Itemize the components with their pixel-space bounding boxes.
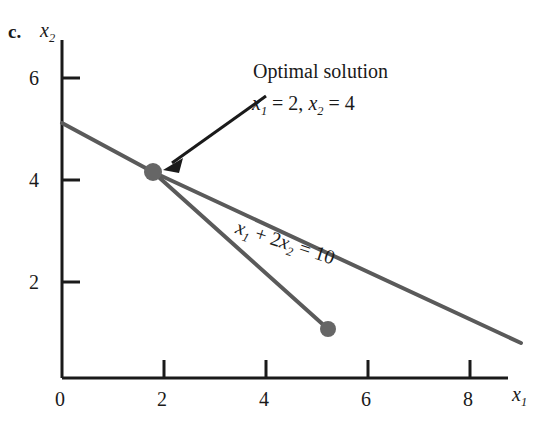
optimal-solution-values: x1 = 2, x2 = 4 bbox=[252, 93, 355, 117]
y-tick-label-2: 2 bbox=[29, 272, 39, 292]
figure-panel-c: c. x2 x1 6 4 2 0 2 4 6 8 Optimal solutio… bbox=[0, 0, 545, 428]
x-tick-label-4: 4 bbox=[259, 389, 269, 409]
endpoint-point bbox=[320, 321, 336, 337]
y-tick-label-6: 6 bbox=[29, 68, 39, 88]
panel-label: c. bbox=[8, 22, 21, 41]
y-axis-label-sub: 2 bbox=[49, 31, 55, 45]
x-axis-label-sub: 1 bbox=[521, 395, 527, 409]
x-axis-label: x1 bbox=[512, 384, 527, 408]
y-axis-label-var: x bbox=[40, 19, 49, 41]
y-axis-label: x2 bbox=[40, 20, 55, 44]
optimal-x2-var: x bbox=[308, 92, 317, 114]
x-axis-label-var: x bbox=[512, 383, 521, 405]
annotation-arrow-head bbox=[163, 158, 183, 173]
x-tick-label-6: 6 bbox=[361, 389, 371, 409]
y-tick-label-4: 4 bbox=[29, 170, 39, 190]
x-tick-label-0: 0 bbox=[55, 389, 65, 409]
optimal-x1-eq: = 2, bbox=[267, 92, 308, 114]
optimal-x1-var: x bbox=[252, 92, 261, 114]
optimal-solution-point bbox=[144, 163, 162, 181]
optimal-x2-eq: = 4 bbox=[323, 92, 354, 114]
x-tick-label-8: 8 bbox=[463, 389, 473, 409]
x-tick-label-2: 2 bbox=[157, 389, 167, 409]
optimal-solution-title: Optimal solution bbox=[253, 61, 388, 81]
